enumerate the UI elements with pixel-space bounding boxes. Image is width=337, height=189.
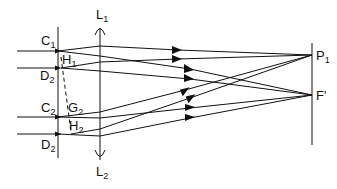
label-l1: L1	[96, 8, 108, 24]
label-h1: H1	[62, 53, 76, 69]
label-h2: H2	[69, 119, 83, 135]
label-p1: P1	[316, 49, 330, 65]
optical-diagram	[0, 0, 337, 189]
label-d2-bottom: D2	[41, 138, 55, 154]
label-c2: C2	[41, 101, 55, 117]
label-g2: G2	[68, 101, 83, 117]
label-l2: L2	[96, 165, 108, 181]
label-d2-top: D2	[40, 69, 54, 85]
label-f-prime: F'	[316, 89, 326, 102]
label-c1: C1	[41, 34, 55, 50]
